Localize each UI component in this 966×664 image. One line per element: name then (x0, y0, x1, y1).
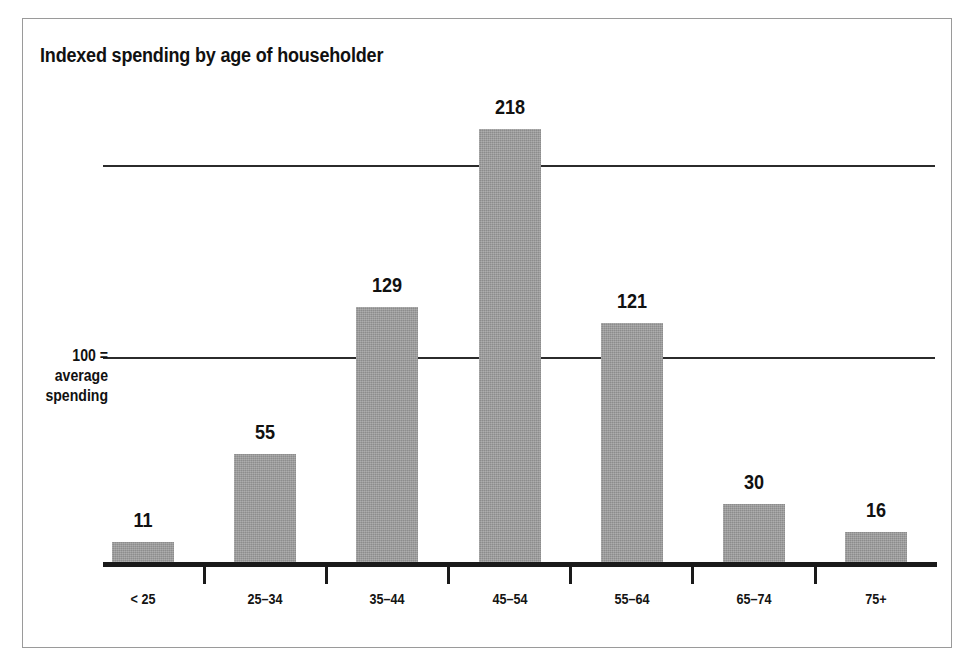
bar-45-54 (479, 129, 541, 564)
axis-tick (447, 567, 450, 584)
bar-55-64 (601, 323, 663, 564)
bar-25-34 (234, 454, 296, 564)
axis-tick (691, 567, 694, 584)
category-label: 25–34 (215, 590, 316, 607)
bar-75+ (845, 532, 907, 564)
y-axis-note-line-2: average (45, 366, 108, 386)
bar-65-74 (723, 504, 785, 564)
bar-value-label: 129 (344, 273, 430, 297)
bar-value-label: 55 (222, 420, 308, 444)
axis-tick (814, 567, 817, 584)
category-label: 55–64 (581, 590, 682, 607)
category-label: 65–74 (704, 590, 805, 607)
chart-page: Indexed spending by age of householder 1… (0, 0, 966, 664)
category-label: 45–54 (459, 590, 560, 607)
bar-value-label: 218 (467, 95, 553, 119)
category-label: 35–44 (337, 590, 438, 607)
axis-tick (203, 567, 206, 584)
bar-value-label: 30 (711, 470, 797, 494)
bar-chart-plot-area: 11551292181213016 < 2525–3435–4445–5455–… (0, 0, 966, 664)
bar-value-label: 121 (589, 289, 675, 313)
bar-value-label: 16 (833, 498, 919, 522)
bar-35-44 (356, 307, 418, 564)
bar-value-label: 11 (100, 508, 186, 532)
x-axis-baseline (103, 562, 937, 567)
y-axis-note-line-1: 100 = (45, 346, 108, 366)
axis-tick (569, 567, 572, 584)
category-label: < 25 (93, 590, 194, 607)
category-label: 75+ (826, 590, 927, 607)
y-axis-note-line-3: spending (45, 386, 108, 406)
bar--25 (112, 542, 174, 564)
y-axis-reference-note: 100 = average spending (45, 346, 108, 406)
axis-tick (325, 567, 328, 584)
